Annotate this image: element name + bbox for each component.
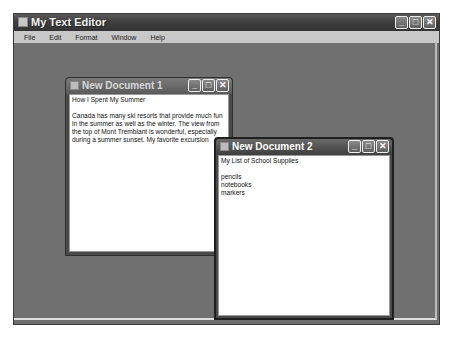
maximize-button[interactable]: □ [202,79,215,92]
menu-format[interactable]: Format [75,34,97,41]
minimize-button[interactable]: _ [395,16,408,29]
document-1-text-area[interactable]: How I Spent My Summer Canada has many sk… [69,94,229,252]
close-button[interactable]: ✕ [376,140,389,153]
document-icon[interactable] [70,81,79,90]
main-title-bar[interactable]: My Text Editor _ □ ✕ [14,14,439,31]
maximize-button[interactable]: □ [409,16,422,29]
document-window-2[interactable]: New Document 2 _ □ ✕ My List of School S… [214,137,394,320]
document-1-controls: _ □ ✕ [188,79,229,92]
menu-edit[interactable]: Edit [49,34,61,41]
minimize-button[interactable]: _ [188,79,201,92]
document-2-text-area[interactable]: My List of School Supplies pencils noteb… [218,155,390,316]
menu-file[interactable]: File [24,34,35,41]
document-window-1[interactable]: New Document 1 _ □ ✕ How I Spent My Summ… [65,77,233,256]
document-1-title: New Document 1 [82,80,163,91]
main-window: My Text Editor _ □ ✕ File Edit Format Wi… [13,13,440,325]
close-button[interactable]: ✕ [216,79,229,92]
document-2-title-bar[interactable]: New Document 2 _ □ ✕ [216,139,392,155]
menu-window[interactable]: Window [112,34,137,41]
menu-bar: File Edit Format Window Help [14,31,439,43]
document-2-title: New Document 2 [232,141,313,152]
menu-help[interactable]: Help [150,34,164,41]
maximize-button[interactable]: □ [362,140,375,153]
minimize-button[interactable]: _ [348,140,361,153]
document-1-title-bar[interactable]: New Document 1 _ □ ✕ [66,78,232,94]
close-button[interactable]: ✕ [423,16,436,29]
app-title: My Text Editor [31,16,106,28]
document-icon[interactable] [220,142,229,151]
window-controls: _ □ ✕ [395,16,436,29]
app-icon[interactable] [18,17,28,27]
document-2-controls: _ □ ✕ [348,140,389,153]
mdi-client-area: New Document 1 _ □ ✕ How I Spent My Summ… [14,43,437,320]
